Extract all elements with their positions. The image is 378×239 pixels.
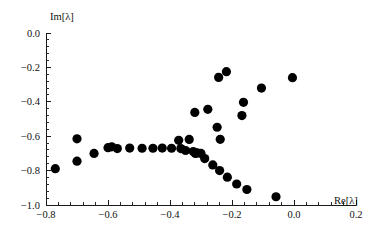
data-point [257,83,266,92]
data-point [214,73,223,82]
x-axis-title: Re[λ] [334,195,358,206]
x-tick-label: 0.0 [287,209,300,220]
y-tick-label: 0.0 [27,28,40,39]
data-point [288,73,297,82]
data-point [138,144,147,153]
data-point [185,135,194,144]
data-point [125,143,134,152]
data-point [200,154,209,163]
data-point [216,135,225,144]
x-tick-label: −0.2 [222,209,241,220]
y-tick-label: −0.6 [21,131,40,142]
plot-canvas: −0.8−0.6−0.4−0.20.00.2−1.0−0.8−0.6−0.4−0… [0,0,378,239]
y-tick-label: −0.8 [21,165,40,176]
data-point [190,108,199,117]
data-point [181,146,190,155]
ticks-layer [46,33,356,205]
x-tick-label: −0.4 [160,209,180,220]
x-tick-label: −0.8 [36,209,55,220]
data-point [203,105,212,114]
x-tick-label: −0.6 [98,209,117,220]
axes-layer [46,33,356,205]
y-tick-label: −1.0 [21,200,40,211]
data-point [271,192,280,201]
data-point [72,134,81,143]
data-point [113,144,122,153]
data-point [158,143,167,152]
data-points-layer [51,67,297,201]
x-tick-label: 0.2 [349,209,362,220]
data-point [148,144,157,153]
data-point [242,185,251,194]
y-tick-label: −0.2 [21,62,40,73]
data-point [223,173,232,182]
scatter-plot-figure: −0.8−0.6−0.4−0.20.00.2−1.0−0.8−0.6−0.4−0… [0,0,378,239]
data-point [222,67,231,76]
data-point [89,149,98,158]
y-tick-label: −0.4 [21,96,41,107]
tick-labels-layer: −0.8−0.6−0.4−0.20.00.2−1.0−0.8−0.6−0.4−0… [21,28,363,220]
data-point [167,144,176,153]
data-point [213,123,222,132]
data-point [232,179,241,188]
data-point [174,136,183,145]
y-axis-title: Im[λ] [50,11,74,22]
data-point [237,111,246,120]
data-point [239,98,248,107]
data-point [51,164,60,173]
data-point [215,166,224,175]
data-point [72,157,81,166]
